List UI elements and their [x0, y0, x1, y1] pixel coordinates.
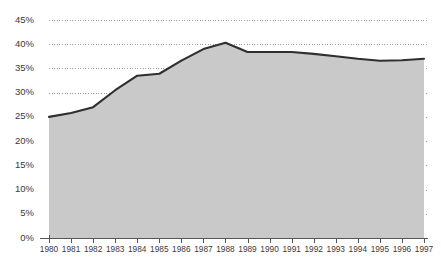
x-tick-label-1989: 1989 — [238, 244, 257, 254]
y-tick-label-45%: 45% — [15, 14, 35, 25]
x-tick-label-1980: 1980 — [40, 244, 59, 254]
x-tick-label-1984: 1984 — [128, 244, 147, 254]
x-tick-label-1992: 1992 — [304, 244, 323, 254]
x-tick-label-1987: 1987 — [194, 244, 213, 254]
x-tick-label-1981: 1981 — [62, 244, 81, 254]
y-tick-label-15%: 15% — [15, 159, 35, 170]
x-tick-label-1997: 1997 — [415, 244, 434, 254]
x-tick-label-1993: 1993 — [327, 244, 346, 254]
x-tick-label-1990: 1990 — [260, 244, 279, 254]
y-tick-label-20%: 20% — [15, 135, 35, 146]
y-tick-label-5%: 5% — [20, 207, 34, 218]
area-chart: 0%5%10%15%20%25%30%35%40%45% 19801981198… — [0, 0, 441, 267]
chart-container: 0%5%10%15%20%25%30%35%40%45% 19801981198… — [0, 0, 441, 267]
x-tick-label-1985: 1985 — [150, 244, 169, 254]
x-tick-label-1995: 1995 — [371, 244, 390, 254]
x-tick-label-1982: 1982 — [84, 244, 103, 254]
x-tick-label-1983: 1983 — [106, 244, 125, 254]
x-tick-label-1986: 1986 — [172, 244, 191, 254]
x-tick-label-1994: 1994 — [349, 244, 368, 254]
y-tick-label-30%: 30% — [15, 86, 35, 97]
y-tick-label-10%: 10% — [15, 183, 35, 194]
y-tick-label-35%: 35% — [15, 62, 35, 73]
y-tick-label-0%: 0% — [20, 232, 34, 243]
x-tick-label-1988: 1988 — [216, 244, 235, 254]
x-tick-label-1996: 1996 — [393, 244, 412, 254]
y-tick-label-25%: 25% — [15, 110, 35, 121]
y-tick-label-40%: 40% — [15, 38, 35, 49]
x-tick-label-1991: 1991 — [282, 244, 301, 254]
